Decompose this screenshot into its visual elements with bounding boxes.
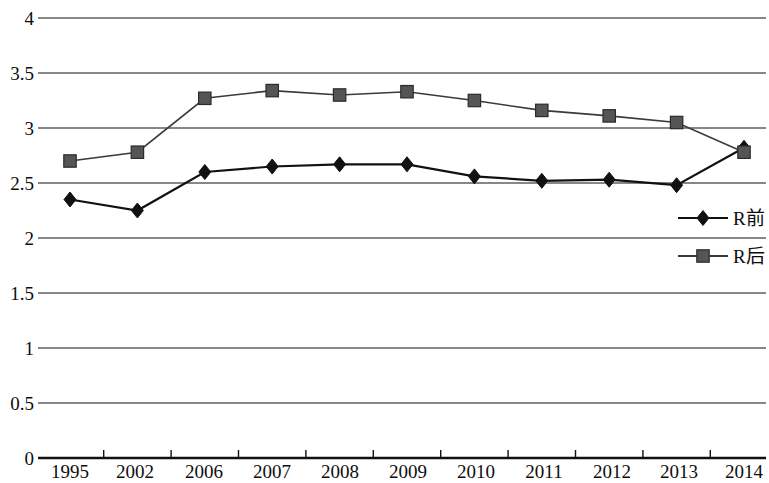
series-layer: [64, 84, 750, 218]
line-chart: 4 3.5 3 2.5 2 1.5 1 0.5 0 1995 2002 2006…: [0, 0, 769, 483]
legend-label-r-qian: R前: [733, 209, 765, 228]
data-point-square: [64, 155, 76, 167]
series-line-r-hou: [70, 91, 744, 161]
data-point-square: [603, 110, 615, 122]
data-point-square: [670, 116, 682, 128]
data-point-diamond: [536, 173, 548, 188]
data-point-diamond: [468, 169, 480, 184]
data-point-diamond: [603, 172, 615, 187]
data-point-diamond: [671, 178, 683, 193]
data-point-square: [697, 250, 709, 262]
data-point-diamond: [334, 157, 346, 172]
plot-area: [0, 0, 769, 483]
data-point-square: [738, 146, 750, 158]
data-point-square: [401, 86, 413, 98]
legend-markers: [678, 211, 728, 263]
data-point-diamond: [266, 159, 278, 174]
data-point-diamond: [131, 203, 143, 218]
data-point-square: [333, 89, 345, 101]
data-point-diamond: [697, 211, 709, 226]
data-point-diamond: [199, 165, 211, 180]
gridlines: [38, 18, 766, 458]
data-point-square: [199, 92, 211, 104]
legend-label-r-hou: R后: [733, 247, 765, 266]
data-point-diamond: [64, 192, 76, 207]
data-point-square: [536, 104, 548, 116]
data-point-square: [131, 146, 143, 158]
data-point-diamond: [401, 157, 413, 172]
data-point-square: [266, 84, 278, 96]
data-point-square: [468, 94, 480, 106]
